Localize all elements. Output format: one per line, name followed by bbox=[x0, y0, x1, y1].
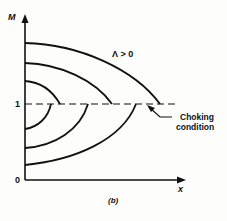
figure-caption: (b) bbox=[108, 196, 119, 205]
x-axis-arrow-icon bbox=[177, 177, 186, 184]
annotation-line1: Choking bbox=[180, 112, 214, 122]
annotation-line2: condition bbox=[176, 122, 214, 132]
y-tick-0: 0 bbox=[15, 175, 20, 185]
y-axis-label: M bbox=[8, 12, 16, 22]
y-tick-1: 1 bbox=[15, 99, 20, 109]
x-axis-label: x bbox=[177, 184, 184, 194]
curve-supersonic-1 bbox=[25, 43, 160, 104]
diagram-svg: M x 0 1 Λ > 0 Choking condition (b) bbox=[0, 0, 227, 221]
curve-supersonic-3 bbox=[25, 81, 60, 104]
parameter-label: Λ > 0 bbox=[112, 49, 133, 59]
y-axis-arrow-icon bbox=[22, 14, 29, 23]
curve-subsonic-3 bbox=[25, 104, 136, 165]
mach-number-diagram: M x 0 1 Λ > 0 Choking condition (b) bbox=[0, 0, 227, 221]
curve-subsonic-1 bbox=[25, 104, 51, 129]
